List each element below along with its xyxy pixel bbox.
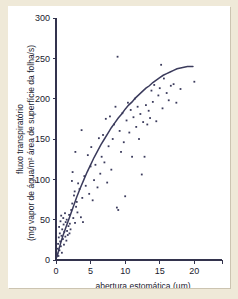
data-point [65, 240, 67, 242]
data-point [116, 207, 118, 209]
data-point [102, 134, 104, 136]
data-point [110, 169, 112, 171]
data-point [57, 248, 59, 250]
data-point [83, 175, 85, 177]
data-point [87, 154, 89, 156]
y-tick-label: 50 [40, 215, 50, 225]
x-axis-title: abertura estomática (µm) [95, 281, 190, 288]
data-point [79, 188, 81, 190]
data-point [65, 221, 67, 223]
axis-labels-group: 05010015020025030005101520abertura estom… [15, 13, 199, 288]
x-tick-label: 0 [53, 266, 58, 276]
x-tick-label: 15 [155, 266, 165, 276]
data-point [61, 228, 63, 230]
data-point [61, 252, 63, 254]
data-point [105, 118, 107, 120]
data-point [104, 161, 106, 163]
data-point [145, 104, 147, 106]
data-point [59, 249, 61, 251]
data-point [63, 244, 65, 246]
data-point [113, 124, 115, 126]
data-point [93, 179, 95, 181]
data-point [151, 90, 153, 92]
data-point [127, 102, 129, 104]
data-point [112, 138, 114, 140]
data-point [63, 224, 65, 226]
data-point [130, 109, 132, 111]
data-point [77, 212, 79, 214]
data-point [124, 195, 126, 197]
data-point [146, 124, 148, 126]
data-point [123, 141, 125, 143]
data-point [62, 238, 64, 240]
data-point [85, 185, 87, 187]
data-point [128, 132, 130, 134]
fit-curve [57, 66, 193, 256]
y-tick-label: 200 [35, 94, 50, 104]
data-point [122, 112, 124, 114]
data-point [69, 223, 71, 225]
data-point [71, 180, 73, 182]
data-point [159, 87, 161, 89]
data-point [120, 151, 122, 153]
data-point [77, 182, 79, 184]
data-point [98, 137, 100, 139]
data-point [163, 78, 165, 80]
data-point [108, 145, 110, 147]
data-point [149, 117, 151, 119]
data-point [138, 138, 140, 140]
data-point [168, 99, 170, 101]
data-point [193, 81, 195, 83]
data-point [166, 92, 168, 94]
data-point [57, 243, 59, 245]
y-tick-label: 0 [45, 255, 50, 265]
data-point [67, 234, 69, 236]
data-point [152, 101, 154, 103]
data-point [173, 83, 175, 85]
data-point [69, 232, 71, 234]
data-point [135, 126, 137, 128]
data-point [175, 102, 177, 104]
x-tick-label: 10 [120, 266, 130, 276]
data-point [97, 187, 99, 189]
data-point [80, 216, 82, 218]
data-point [126, 120, 128, 122]
data-point [68, 225, 70, 227]
data-point [99, 173, 101, 175]
data-point [81, 129, 83, 131]
data-point [66, 230, 68, 232]
data-point [155, 120, 157, 122]
data-point [56, 253, 58, 255]
data-point [76, 201, 78, 203]
chart-panel: 05010015020025030005101520abertura estom… [8, 6, 230, 288]
x-tick-label: 5 [88, 266, 93, 276]
data-point [131, 156, 133, 158]
data-point [74, 151, 76, 153]
data-point [88, 193, 90, 195]
data-point [66, 219, 68, 221]
data-point [60, 215, 62, 217]
data-point [142, 121, 144, 123]
y-axis-title-line2: (mg vapor de água/m² área de superfície … [26, 45, 36, 241]
data-point [115, 106, 117, 108]
y-tick-label: 100 [35, 175, 50, 185]
data-point [74, 222, 76, 224]
data-point [137, 106, 139, 108]
data-point [58, 226, 60, 228]
data-point [101, 156, 103, 158]
data-point [170, 85, 172, 87]
data-point [61, 235, 63, 237]
data-point [71, 203, 73, 205]
data-point [72, 171, 74, 173]
data-point [72, 217, 74, 219]
data-point [95, 164, 97, 166]
data-point [58, 237, 60, 239]
data-point [63, 231, 65, 233]
data-point [90, 166, 92, 168]
scatter-plot: 05010015020025030005101520abertura estom… [8, 6, 230, 288]
data-point [73, 195, 75, 197]
data-point [70, 228, 72, 230]
data-point [117, 56, 119, 58]
data-point [119, 130, 121, 132]
data-point [117, 209, 119, 211]
